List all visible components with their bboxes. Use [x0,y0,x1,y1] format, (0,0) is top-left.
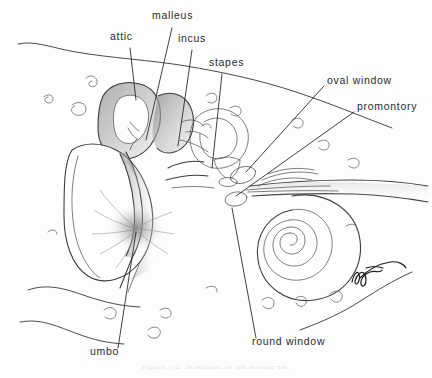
middle-ear-diagram: attic malleus incus stapes oval window p… [0,0,432,378]
label-incus: incus [178,32,206,44]
anatomical-figure: attic malleus incus stapes oval window p… [0,0,432,378]
label-oval-window: oval window [327,74,392,86]
label-attic: attic [110,30,133,42]
label-round-window: round window [252,335,325,347]
label-stapes: stapes [209,56,244,68]
label-promontory: promontory [357,100,417,112]
label-malleus: malleus [152,9,193,21]
label-umbo: umbo [90,345,119,357]
